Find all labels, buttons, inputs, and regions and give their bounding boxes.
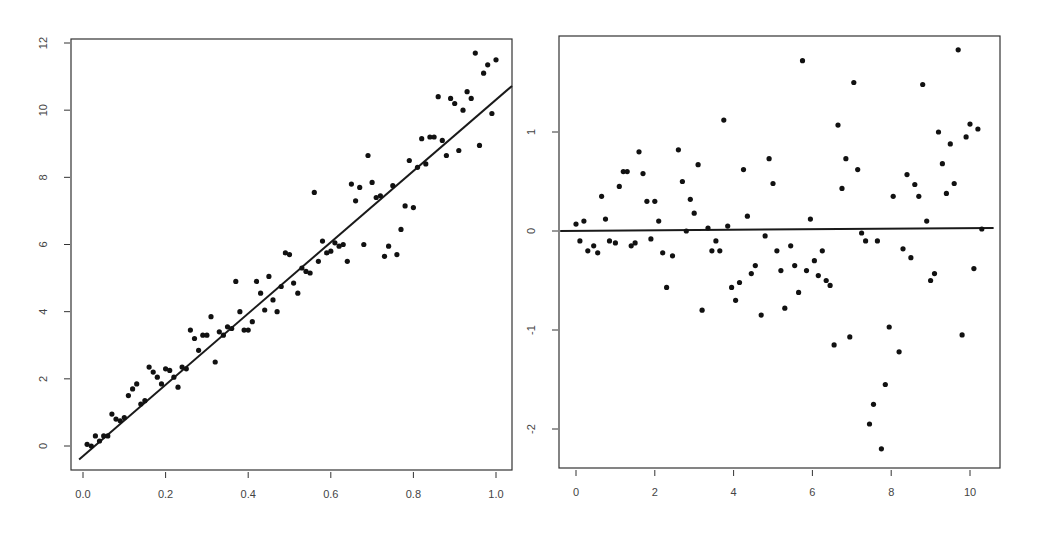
data-point	[847, 334, 852, 339]
data-point	[365, 153, 370, 158]
data-point	[676, 147, 681, 152]
data-point	[105, 433, 110, 438]
data-point	[357, 185, 362, 190]
data-point	[167, 368, 172, 373]
data-point	[835, 123, 840, 128]
data-point	[912, 182, 917, 187]
data-point	[291, 281, 296, 286]
data-point	[295, 291, 300, 296]
data-point	[147, 365, 152, 370]
data-point	[361, 242, 366, 247]
data-point	[440, 138, 445, 143]
data-point	[920, 82, 925, 87]
data-point	[204, 333, 209, 338]
data-point	[936, 129, 941, 134]
data-point	[287, 252, 292, 257]
data-point	[863, 238, 868, 243]
data-point	[633, 240, 638, 245]
data-point	[617, 184, 622, 189]
x-tick-label: 6	[809, 486, 815, 498]
data-point	[904, 172, 909, 177]
data-point	[246, 328, 251, 333]
data-point	[279, 284, 284, 289]
data-point	[875, 238, 880, 243]
data-point	[109, 412, 114, 417]
data-point	[908, 255, 913, 260]
data-point	[171, 375, 176, 380]
data-point	[737, 280, 742, 285]
data-point	[859, 230, 864, 235]
data-point	[328, 249, 333, 254]
data-point	[770, 181, 775, 186]
data-point	[733, 298, 738, 303]
data-point	[473, 51, 478, 56]
data-point	[477, 143, 482, 148]
data-point	[792, 263, 797, 268]
figure-canvas: 0.00.20.40.60.81.0 024681012 0246810 -2-…	[0, 0, 1040, 534]
data-point	[469, 96, 474, 101]
data-point	[390, 183, 395, 188]
y-tick-label: 0	[525, 228, 537, 234]
data-point	[118, 418, 123, 423]
data-point	[456, 148, 461, 153]
data-point	[196, 348, 201, 353]
left-scatter-plot: 0.00.20.40.60.81.0 024681012	[37, 37, 512, 500]
y-tick-label: -2	[525, 424, 537, 434]
data-point	[386, 244, 391, 249]
fit-line	[79, 86, 512, 460]
x-tick-label: 0.2	[158, 488, 173, 500]
data-point	[705, 225, 710, 230]
data-point	[916, 194, 921, 199]
data-point	[452, 101, 457, 106]
data-point	[897, 349, 902, 354]
x-tick-label: 0.4	[241, 488, 256, 500]
data-point	[89, 443, 94, 448]
x-tick-label: 4	[731, 486, 737, 498]
data-point	[812, 258, 817, 263]
data-point	[832, 342, 837, 347]
data-point	[423, 161, 428, 166]
data-point	[448, 96, 453, 101]
data-point	[924, 219, 929, 224]
data-point	[979, 226, 984, 231]
data-point	[250, 319, 255, 324]
data-point	[725, 224, 730, 229]
fit-line	[560, 228, 993, 231]
data-point	[599, 194, 604, 199]
data-point	[824, 278, 829, 283]
data-point	[138, 401, 143, 406]
y-tick-label: 0	[37, 443, 49, 449]
data-point	[382, 254, 387, 259]
data-point	[266, 274, 271, 279]
data-point	[262, 307, 267, 312]
left-data-points	[85, 51, 499, 449]
data-point	[493, 57, 498, 62]
data-point	[607, 238, 612, 243]
data-point	[745, 214, 750, 219]
data-point	[233, 279, 238, 284]
data-point	[370, 180, 375, 185]
data-point	[415, 165, 420, 170]
data-point	[855, 167, 860, 172]
data-point	[713, 238, 718, 243]
data-point	[213, 359, 218, 364]
data-point	[349, 182, 354, 187]
data-point	[308, 270, 313, 275]
data-point	[656, 219, 661, 224]
data-point	[652, 199, 657, 204]
x-tick-label: 0.6	[323, 488, 338, 500]
y-tick-label: 10	[37, 104, 49, 116]
data-point	[867, 421, 872, 426]
data-point	[800, 58, 805, 63]
data-point	[432, 134, 437, 139]
data-point	[839, 186, 844, 191]
y-tick-label: 2	[37, 376, 49, 382]
data-point	[883, 382, 888, 387]
data-point	[345, 259, 350, 264]
right-plot-frame	[559, 36, 1000, 468]
data-point	[717, 248, 722, 253]
data-point	[155, 375, 160, 380]
data-point	[692, 211, 697, 216]
data-point	[944, 191, 949, 196]
data-point	[407, 158, 412, 163]
